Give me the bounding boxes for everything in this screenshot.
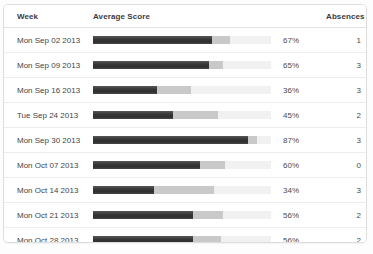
cell-average-score-bar <box>90 28 278 53</box>
column-header-absences[interactable]: Absences <box>326 5 367 28</box>
table-row[interactable]: Mon Oct 07 201360%0 <box>4 153 367 178</box>
cell-score-value: 45% <box>278 103 326 128</box>
screenshot-root: Week Average Score Absences Mon Sep 02 2… <box>0 0 373 254</box>
cell-absences: 1 <box>326 28 367 53</box>
cell-average-score-bar <box>90 103 278 128</box>
bar-track <box>93 36 271 44</box>
table-row[interactable]: Mon Oct 21 201356%2 <box>4 203 367 228</box>
bar-track <box>93 61 271 69</box>
bar-fill <box>93 211 193 219</box>
table-row[interactable]: Mon Sep 02 201367%1 <box>4 28 367 53</box>
bar-track <box>93 86 271 94</box>
table-body: Mon Sep 02 201367%1Mon Sep 09 201365%3Mo… <box>4 28 367 244</box>
table-row[interactable]: Mon Sep 09 201365%3 <box>4 53 367 78</box>
cell-absences: 3 <box>326 178 367 203</box>
bar-track <box>93 186 271 194</box>
cell-score-value: 56% <box>278 228 326 244</box>
column-header-average-score[interactable]: Average Score <box>90 5 278 28</box>
cell-week: Mon Sep 09 2013 <box>4 53 90 78</box>
table-header: Week Average Score Absences <box>4 5 367 28</box>
bar-fill <box>93 111 173 119</box>
cell-absences: 2 <box>326 103 367 128</box>
cell-score-value: 67% <box>278 28 326 53</box>
bar-fill <box>93 161 200 169</box>
cell-week: Mon Sep 30 2013 <box>4 128 90 153</box>
cell-week: Mon Oct 07 2013 <box>4 153 90 178</box>
bar-track <box>93 236 271 243</box>
cell-score-value: 56% <box>278 203 326 228</box>
cell-score-value: 36% <box>278 78 326 103</box>
table-header-row: Week Average Score Absences <box>4 5 367 28</box>
cell-absences: 3 <box>326 53 367 78</box>
bar-fill <box>93 136 248 144</box>
cell-score-value: 87% <box>278 128 326 153</box>
cell-absences: 3 <box>326 128 367 153</box>
cell-average-score-bar <box>90 228 278 244</box>
table-row[interactable]: Mon Oct 14 201334%3 <box>4 178 367 203</box>
bar-track <box>93 211 271 219</box>
column-header-score-value <box>278 5 326 28</box>
table-row[interactable]: Mon Sep 30 201387%3 <box>4 128 367 153</box>
table-row[interactable]: Mon Sep 16 201336%3 <box>4 78 367 103</box>
cell-average-score-bar <box>90 53 278 78</box>
bar-fill <box>93 86 157 94</box>
table-row[interactable]: Mon Oct 28 201356%2 <box>4 228 367 244</box>
cell-week: Mon Oct 21 2013 <box>4 203 90 228</box>
bar-fill <box>93 36 212 44</box>
bar-fill <box>93 236 193 243</box>
bar-fill <box>93 186 154 194</box>
bar-track <box>93 111 271 119</box>
average-score-table: Week Average Score Absences Mon Sep 02 2… <box>4 5 367 243</box>
cell-week: Mon Sep 02 2013 <box>4 28 90 53</box>
cell-week: Mon Oct 28 2013 <box>4 228 90 244</box>
bar-track <box>93 136 271 144</box>
cell-week: Tue Sep 24 2013 <box>4 103 90 128</box>
bar-fill <box>93 61 209 69</box>
cell-score-value: 60% <box>278 153 326 178</box>
cell-average-score-bar <box>90 128 278 153</box>
bar-track <box>93 161 271 169</box>
cell-score-value: 34% <box>278 178 326 203</box>
cell-absences: 3 <box>326 78 367 103</box>
cell-score-value: 65% <box>278 53 326 78</box>
cell-average-score-bar <box>90 153 278 178</box>
cell-absences: 2 <box>326 203 367 228</box>
table-row[interactable]: Tue Sep 24 201345%2 <box>4 103 367 128</box>
cell-average-score-bar <box>90 178 278 203</box>
cell-week: Mon Oct 14 2013 <box>4 178 90 203</box>
average-score-table-panel: Week Average Score Absences Mon Sep 02 2… <box>3 4 367 243</box>
cell-week: Mon Sep 16 2013 <box>4 78 90 103</box>
cell-absences: 2 <box>326 228 367 244</box>
cell-average-score-bar <box>90 203 278 228</box>
cell-average-score-bar <box>90 78 278 103</box>
cell-absences: 0 <box>326 153 367 178</box>
column-header-week[interactable]: Week <box>4 5 90 28</box>
